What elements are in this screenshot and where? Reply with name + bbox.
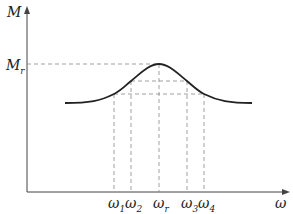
- tick-omega-r: ωr: [153, 196, 169, 210]
- y-axis-label: M: [7, 5, 21, 19]
- dashed-guides: [27, 64, 204, 192]
- tick-omega-3: ω3: [181, 196, 198, 210]
- tick-omega-1: ω1: [108, 196, 125, 210]
- x-axis-label: ω: [275, 196, 286, 210]
- peak-label: Mr: [6, 58, 25, 72]
- tick-omega-4: ω4: [198, 196, 215, 210]
- resonance-curve: [65, 64, 252, 103]
- resonance-diagram: M Mr ω ω1 ω2 ωr ω3 ω4: [0, 0, 293, 214]
- diagram-canvas: [0, 0, 293, 214]
- tick-omega-2: ω2: [125, 196, 142, 210]
